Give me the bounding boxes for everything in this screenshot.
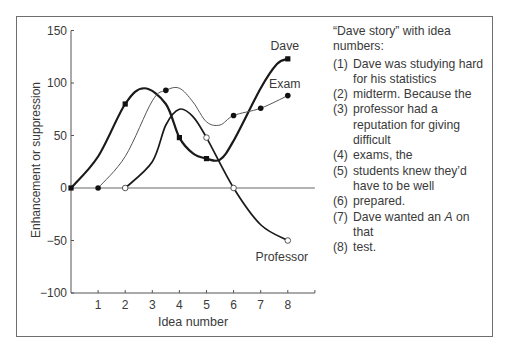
legend-item-number: (1) bbox=[333, 57, 353, 88]
legend-item-number: (8) bbox=[333, 240, 353, 255]
y-tick-label: 150 bbox=[47, 24, 67, 38]
x-tick-label: 2 bbox=[122, 298, 129, 312]
y-tick-label: 50 bbox=[54, 129, 68, 143]
open-circle-marker bbox=[231, 185, 237, 191]
series-label-exam: Exam bbox=[269, 77, 300, 91]
legend-item-text: exams, the bbox=[353, 148, 493, 163]
series-dave bbox=[68, 56, 290, 190]
story-legend: “Dave story” with idea numbers: (1)Dave … bbox=[333, 24, 493, 255]
open-circle-marker bbox=[285, 238, 291, 244]
x-tick-label: 6 bbox=[230, 298, 237, 312]
legend-item: (4)exams, the bbox=[333, 148, 493, 163]
filled-circle-marker bbox=[231, 113, 237, 119]
legend-item: (6)prepared. bbox=[333, 194, 493, 209]
series-labels: DaveExamProfessor bbox=[255, 39, 308, 264]
x-tick-label: 7 bbox=[257, 298, 264, 312]
y-axis: 150100500−50−100 bbox=[40, 24, 74, 301]
filled-circle-marker bbox=[285, 93, 291, 99]
legend-item: (1)Dave was studying hard for his statis… bbox=[333, 57, 493, 88]
legend-item: (2)midterm. Because the bbox=[333, 87, 493, 102]
series-line bbox=[125, 109, 288, 241]
filled-circle-marker bbox=[163, 88, 169, 94]
legend-item: (7)Dave wanted an A on that bbox=[333, 210, 493, 241]
x-tick-label: 1 bbox=[95, 298, 102, 312]
legend-item-number: (6) bbox=[333, 194, 353, 209]
y-tick-label: −100 bbox=[40, 286, 67, 300]
legend-items: (1)Dave was studying hard for his statis… bbox=[333, 57, 493, 256]
y-tick-label: 100 bbox=[47, 76, 67, 90]
legend-item-number: (3) bbox=[333, 102, 353, 148]
legend-item-text: prepared. bbox=[353, 194, 493, 209]
square-marker bbox=[68, 185, 73, 190]
x-tick-label: 5 bbox=[203, 298, 210, 312]
legend-item: (5)students knew they’d have to be well bbox=[333, 164, 493, 195]
legend-item-text: test. bbox=[353, 240, 493, 255]
open-circle-marker bbox=[204, 135, 210, 141]
legend-item-text: Dave wanted an A on that bbox=[353, 210, 493, 241]
y-tick-label: −50 bbox=[47, 234, 68, 248]
series-line bbox=[71, 59, 288, 188]
series-lines bbox=[68, 56, 290, 243]
filled-circle-marker bbox=[258, 105, 264, 111]
legend-item-number: (5) bbox=[333, 164, 353, 195]
square-marker bbox=[285, 56, 290, 61]
x-tick-label: 8 bbox=[284, 298, 291, 312]
square-marker bbox=[177, 135, 182, 140]
series-label-professor: Professor bbox=[255, 250, 308, 264]
y-tick-label: 0 bbox=[60, 181, 67, 195]
legend-item-number: (7) bbox=[333, 210, 353, 241]
legend-item-text: midterm. Because the bbox=[353, 87, 493, 102]
series-label-dave: Dave bbox=[270, 39, 299, 53]
filled-circle-marker bbox=[95, 185, 101, 191]
square-marker bbox=[123, 101, 128, 106]
legend-item: (8)test. bbox=[333, 240, 493, 255]
y-axis-label: Enhancement or suppression bbox=[29, 82, 43, 238]
x-axis-label: Idea number bbox=[158, 315, 228, 329]
square-marker bbox=[204, 156, 209, 161]
series-professor bbox=[122, 109, 290, 243]
legend-item-text: Dave was studying hard for his statistic… bbox=[353, 57, 493, 88]
legend-title: “Dave story” with idea numbers: bbox=[333, 24, 493, 55]
legend-item-number: (4) bbox=[333, 148, 353, 163]
open-circle-marker bbox=[122, 185, 128, 191]
x-tick-label: 3 bbox=[149, 298, 156, 312]
legend-item: (3)professor had a reputation for giving… bbox=[333, 102, 493, 148]
legend-item-number: (2) bbox=[333, 87, 353, 102]
legend-item-text: students knew they’d have to be well bbox=[353, 164, 493, 195]
x-axis: 12345678 bbox=[71, 290, 315, 312]
x-tick-label: 4 bbox=[176, 298, 183, 312]
legend-item-text: professor had a reputation for giving di… bbox=[353, 102, 493, 148]
